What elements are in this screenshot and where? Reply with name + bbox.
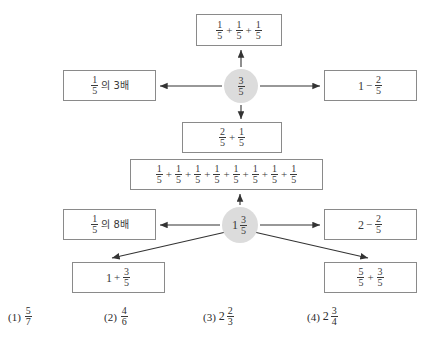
operator: − [365,80,373,91]
fraction-denominator: 5 [240,226,247,236]
fraction: 55 [357,267,364,288]
answer-choice-label: (3) [203,311,219,323]
mixed-number: 135 [232,215,248,236]
fraction-numerator: 1 [236,20,243,31]
expression-box-long-sum: 15+15+15+15+15+15+15+15 [130,159,323,190]
fraction-denominator: 7 [25,317,32,327]
expression: 15의 8배 [90,214,129,235]
answer-choice-label: (4) [307,311,323,323]
fraction: 15 [290,164,297,185]
expression: 55+35 [356,267,384,288]
fraction-denominator: 3 [227,317,234,327]
fraction-denominator: 5 [377,278,384,288]
expression: 15의 3배 [90,75,129,96]
expression: 15+15+15+15+15+15+15+15 [155,164,299,185]
fraction: 15 [271,164,278,185]
fraction: 35 [240,215,247,236]
korean-label: 의 8배 [100,220,129,230]
fraction: 15 [213,164,220,185]
fraction-denominator: 4 [331,317,338,327]
answer-choice-label: (2) [104,311,120,323]
expression-box-left-top: 15의 3배 [63,70,156,101]
expression: 15+15+15 [215,20,262,41]
whole-number: 2 [323,309,329,324]
answer-choices: (1)57 (2)46 (3)223 (4)234 [0,300,442,340]
expression: 1+35 [106,267,131,288]
center-node-bottom: 135 [222,207,258,243]
fraction: 25 [219,127,226,148]
whole-number: 1 [232,218,238,233]
fraction-denominator: 5 [219,138,226,148]
answer-choice-4[interactable]: (4)234 [307,306,339,327]
expression: 57 [24,306,33,327]
fraction-denominator: 6 [121,317,128,327]
fraction: 23 [227,306,234,327]
whole-number: 2 [219,309,225,324]
fraction: 15 [238,127,245,148]
expression: 46 [120,306,129,327]
operator: + [184,169,192,180]
expression-box-bottom-left: 1+35 [72,262,165,293]
expression: 234 [323,306,339,327]
fraction-denominator: 5 [123,278,130,288]
expression: 1−25 [358,75,383,96]
fraction-denominator: 5 [156,175,163,185]
operator: + [228,132,236,143]
fraction: 35 [123,267,130,288]
korean-label: 의 3배 [100,81,129,91]
fraction: 15 [194,164,201,185]
fraction-denominator: 5 [375,225,382,235]
fraction: 15 [252,164,259,185]
fraction-numerator: 1 [255,20,262,31]
operator: + [366,272,374,283]
fraction-numerator: 1 [216,20,223,31]
operator: − [365,219,373,230]
fraction-numerator: 3 [238,76,245,87]
fraction: 35 [377,267,384,288]
expression: 25+15 [218,127,246,148]
answer-choice-label: (1) [8,311,24,323]
fraction: 15 [216,20,223,41]
fraction-denominator: 5 [175,175,182,185]
operator: + [261,169,269,180]
expression: 2−25 [358,214,383,235]
answer-choice-1[interactable]: (1)57 [8,306,33,327]
answer-choice-3[interactable]: (3)223 [203,306,235,327]
expression-box-left-bottom: 15의 8배 [63,209,156,240]
fraction-denominator: 5 [236,31,243,41]
fraction-denominator: 5 [233,175,240,185]
fraction: 15 [233,164,240,185]
fraction-denominator: 5 [357,278,364,288]
expression-box-right-top: 1−25 [324,70,417,101]
fraction-denominator: 5 [91,86,98,96]
fraction-denominator: 5 [255,31,262,41]
fraction-denominator: 5 [91,225,98,235]
fraction-denominator: 5 [238,87,245,97]
fraction-denominator: 5 [271,175,278,185]
expression-box-bottom-right: 55+35 [324,262,417,293]
fraction-denominator: 5 [252,175,259,185]
expression-box-middle: 25+15 [182,122,282,153]
fraction: 15 [175,164,182,185]
answer-choice-2[interactable]: (2)46 [104,306,129,327]
fraction-denominator: 5 [216,31,223,41]
expression-box-top: 15+15+15 [196,14,282,46]
fraction: 15 [255,20,262,41]
fraction: 25 [375,214,382,235]
fraction-denominator: 5 [213,175,220,185]
whole-number: 2 [358,219,364,231]
fraction-denominator: 5 [290,175,297,185]
operator: + [280,169,288,180]
fraction: 15 [156,164,163,185]
operator: + [165,169,173,180]
fraction-denominator: 5 [238,138,245,148]
fraction-numerator: 3 [240,215,247,226]
fraction: 25 [375,75,382,96]
operator: + [245,25,253,36]
center-node-top: 35 [224,69,258,103]
fraction: 15 [236,20,243,41]
operator: + [225,25,233,36]
fraction-denominator: 5 [194,175,201,185]
whole-number: 1 [106,272,112,284]
fraction: 57 [25,306,32,327]
